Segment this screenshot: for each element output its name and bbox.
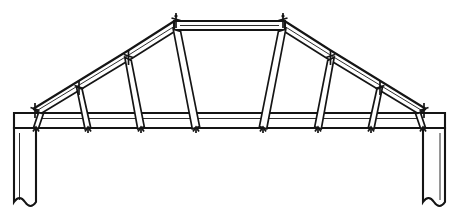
left-column-body <box>14 128 36 206</box>
ridge-right-bolt-dot <box>281 14 284 17</box>
ridge-right-bolt-head <box>279 18 288 21</box>
ridge-left-bolt-dot <box>174 14 177 17</box>
support-columns <box>14 128 445 206</box>
left-support-column <box>14 128 36 206</box>
left-rafter-outer-edge <box>33 20 176 109</box>
tie-beam-body <box>14 113 445 128</box>
tie-beam <box>14 113 445 128</box>
right-column-body <box>423 128 445 206</box>
left-upper-chord <box>33 20 177 114</box>
right-upper-chord <box>282 20 426 114</box>
truss-elevation-drawing <box>0 0 459 216</box>
right-rafter-inner-edge <box>282 30 418 114</box>
right-support-column <box>423 128 445 206</box>
right-rafter-center-line <box>283 25 424 112</box>
right-rafter-outer-edge <box>283 20 426 109</box>
truss-drawing-root <box>0 0 459 216</box>
ridge-left-bolt-head <box>172 18 181 21</box>
left-rafter-inner-edge <box>41 30 177 114</box>
top-collar-tie <box>174 21 285 30</box>
left-rafter-center-line <box>36 25 177 112</box>
